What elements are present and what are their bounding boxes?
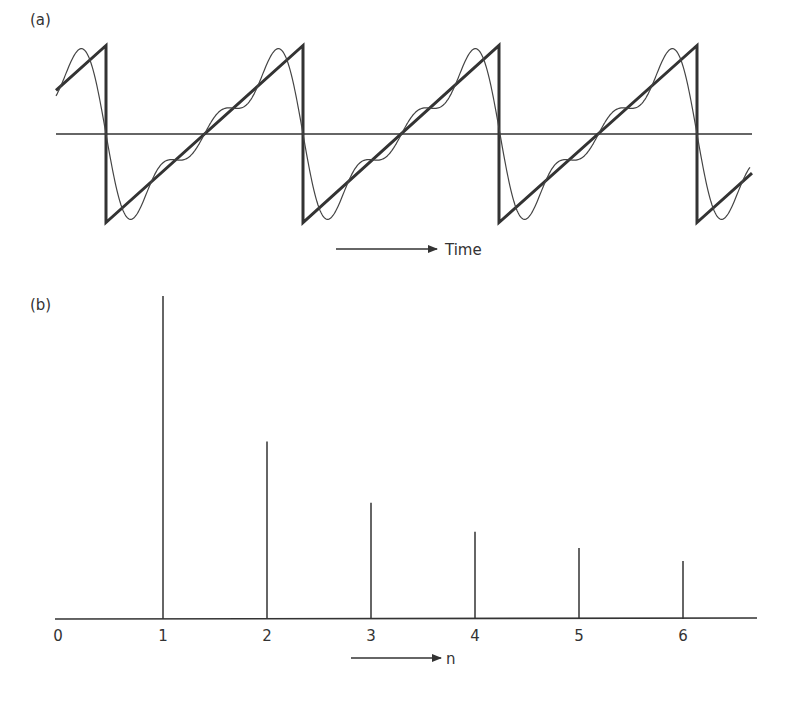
tick-label: 3 xyxy=(366,627,376,645)
panel-b: (b) 0 1 2 3 4 5 6 n xyxy=(30,296,757,668)
tick-label: 2 xyxy=(262,627,272,645)
tick-label: 6 xyxy=(678,627,688,645)
panel-b-label: (b) xyxy=(30,296,51,314)
spectrum-lines xyxy=(163,296,683,619)
figure: (a) Time (b) 0 1 2 3 4 5 6 n xyxy=(0,0,789,701)
time-axis-label: Time xyxy=(444,241,482,259)
panel-a-label: (a) xyxy=(30,11,51,29)
tick-label: 1 xyxy=(158,627,168,645)
panel-a: (a) Time xyxy=(30,11,752,259)
tick-label: 5 xyxy=(574,627,584,645)
tick-label: 0 xyxy=(53,627,63,645)
n-axis-label: n xyxy=(446,650,456,668)
n-axis xyxy=(55,618,757,619)
tick-label: 4 xyxy=(470,627,480,645)
n-tick-labels: 0 1 2 3 4 5 6 xyxy=(53,627,688,645)
